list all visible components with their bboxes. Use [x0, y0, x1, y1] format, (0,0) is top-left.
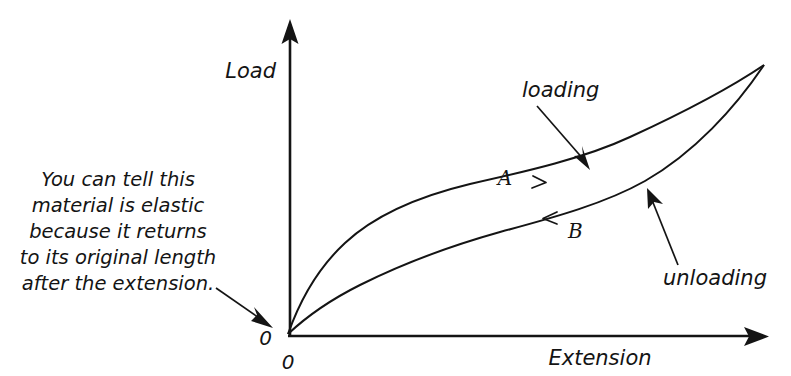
y-axis-label: Load [225, 59, 276, 83]
x-axis-label: Extension [548, 346, 651, 370]
loading-curve [288, 65, 764, 334]
caption-line-2: material is elastic [32, 194, 205, 217]
loading-annotation-leader-line [537, 106, 584, 160]
caption-line-5: after the extension. [22, 272, 214, 295]
loading-annotation: loading [522, 78, 599, 170]
direction-markers-group: A B [496, 166, 583, 243]
curves-group [288, 65, 764, 334]
marker-a-label: A [496, 166, 512, 190]
loading-annotation-label: loading [522, 78, 599, 102]
caption-arrowhead [251, 307, 273, 328]
origin-label-below: 0 [282, 350, 295, 374]
caption-leader-line [216, 288, 262, 320]
loading-direction-arrowhead [532, 176, 546, 188]
figure-container: A B Load Extension 0 0 loading unloading… [0, 0, 791, 376]
unloading-annotation-leader-line [652, 200, 678, 265]
marker-b-label: B [567, 219, 583, 243]
caption-line-4: to its original length [20, 246, 216, 269]
origin-label-left: 0 [259, 326, 272, 350]
axes-group [282, 19, 770, 346]
unloading-annotation-label: unloading [663, 266, 767, 290]
load-extension-diagram: A B Load Extension 0 0 loading unloading… [0, 0, 791, 376]
caption-line-1: You can tell this [41, 168, 195, 191]
caption-block: You can tell this material is elastic be… [20, 168, 273, 328]
caption-line-3: because it returns [29, 220, 207, 243]
loading-annotation-arrowhead [574, 146, 590, 170]
unloading-curve [288, 65, 764, 334]
unloading-annotation: unloading [647, 188, 767, 290]
